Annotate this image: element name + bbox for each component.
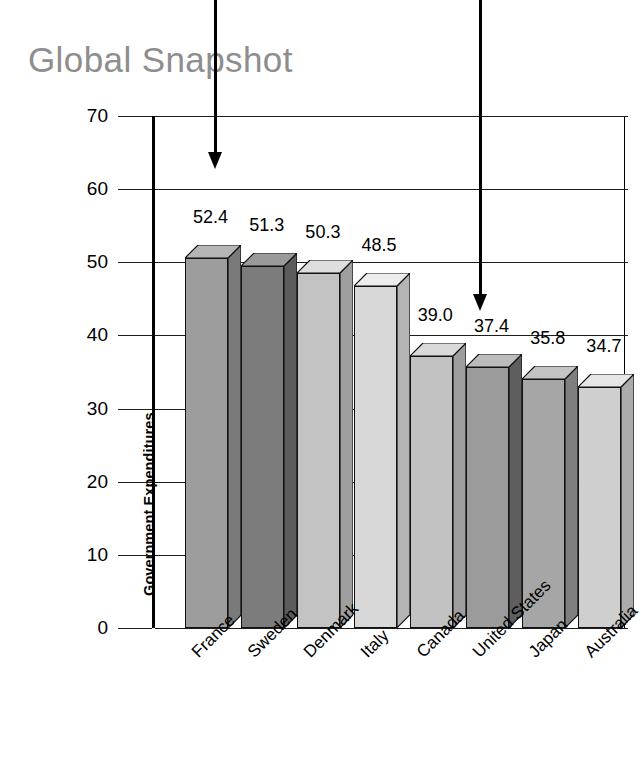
value-label-japan: 35.8 xyxy=(530,328,565,349)
value-label-italy: 48.5 xyxy=(362,235,397,256)
bar-sweden xyxy=(241,253,284,628)
y-tick-mark-40 xyxy=(118,335,152,336)
bar-side-face xyxy=(453,343,466,628)
y-tick-mark-0 xyxy=(118,628,152,629)
bar-top-face xyxy=(522,366,578,379)
bar-front-face xyxy=(241,266,284,628)
y-tick-mark-10 xyxy=(118,555,152,556)
y-tick-mark-50 xyxy=(118,262,152,263)
bar-front-face xyxy=(297,273,340,628)
bar-front-face xyxy=(410,356,453,628)
value-label-france: 52.4 xyxy=(193,207,228,228)
bar-italy xyxy=(354,273,397,628)
bar-side-face xyxy=(565,366,578,628)
y-tick-label-70: 70 xyxy=(62,105,108,127)
bar-top-face xyxy=(241,253,297,266)
bar-united-states xyxy=(466,354,509,628)
bar-canada xyxy=(410,343,453,628)
y-tick-label-0: 0 xyxy=(62,617,108,639)
y-tick-mark-30 xyxy=(118,409,152,410)
bar-top-face xyxy=(185,245,241,258)
plot-area xyxy=(152,116,625,628)
y-tick-label-40: 40 xyxy=(62,324,108,346)
bar-side-face xyxy=(340,260,353,628)
bar-front-face xyxy=(354,286,397,628)
bar-top-face xyxy=(410,343,466,356)
bar-side-face xyxy=(509,354,522,628)
value-label-sweden: 51.3 xyxy=(249,215,284,236)
bar-side-face xyxy=(284,253,297,628)
y-tick-label-20: 20 xyxy=(62,471,108,493)
value-label-denmark: 50.3 xyxy=(305,222,340,243)
page-title: Global Snapshot xyxy=(28,40,293,80)
y-tick-label-10: 10 xyxy=(62,544,108,566)
bar-front-face xyxy=(466,367,509,628)
bar-australia xyxy=(578,374,621,628)
y-tick-mark-70 xyxy=(118,116,152,117)
y-tick-mark-60 xyxy=(118,189,152,190)
bar-front-face xyxy=(185,258,228,628)
y-tick-label-50: 50 xyxy=(62,251,108,273)
y-tick-mark-20 xyxy=(118,482,152,483)
bar-denmark xyxy=(297,260,340,628)
gridline-60 xyxy=(155,189,628,190)
bar-top-face xyxy=(578,374,634,387)
bar-top-face xyxy=(354,273,410,286)
bar-side-face xyxy=(621,374,634,628)
y-axis-title: Government Expenditures as Percentage of… xyxy=(52,176,78,596)
bar-side-face xyxy=(228,245,241,628)
chart-canvas: Global Snapshot Government Expenditures … xyxy=(0,0,641,772)
value-label-canada: 39.0 xyxy=(418,305,453,326)
y-tick-label-30: 30 xyxy=(62,398,108,420)
bar-top-face xyxy=(466,354,522,367)
gridline-70 xyxy=(155,116,628,117)
bar-france xyxy=(185,245,228,628)
bar-top-face xyxy=(297,260,353,273)
bar-side-face xyxy=(397,273,410,628)
category-label-italy: Italy xyxy=(357,626,393,662)
bar-front-face xyxy=(578,387,621,628)
value-label-australia: 34.7 xyxy=(586,336,621,357)
y-tick-label-60: 60 xyxy=(62,178,108,200)
value-label-united-states: 37.4 xyxy=(474,316,509,337)
